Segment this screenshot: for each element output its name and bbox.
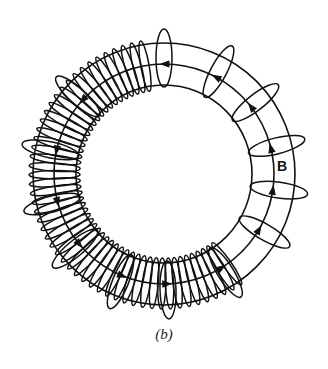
solenoid-winding (29, 40, 245, 309)
caption-text: (b) (155, 326, 173, 342)
middle-ring (54, 64, 274, 284)
toroid-diagram (0, 0, 328, 369)
figure-caption: (b) (0, 326, 328, 343)
field-label-b: B (277, 158, 287, 174)
